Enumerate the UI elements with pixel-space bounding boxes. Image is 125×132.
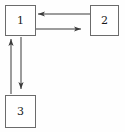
diagram-canvas: 1 2 3 xyxy=(0,0,125,132)
node-box-2[interactable]: 2 xyxy=(90,5,119,36)
node-box-1[interactable]: 1 xyxy=(5,5,36,36)
node-box-3[interactable]: 3 xyxy=(5,95,36,128)
node-label-3: 3 xyxy=(17,106,24,117)
node-label-1: 1 xyxy=(17,15,24,26)
node-label-2: 2 xyxy=(101,15,108,26)
